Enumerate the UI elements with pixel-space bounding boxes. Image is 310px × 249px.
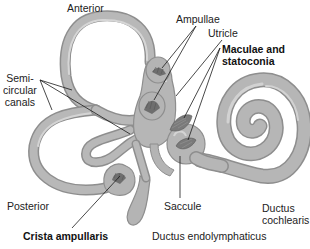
label-semicircular-canals: Semi- circular canals bbox=[3, 72, 37, 108]
label-ductus-endolymphaticus: Ductus endolymphaticus bbox=[152, 230, 266, 242]
label-maculae-statoconia: Maculae and statoconia bbox=[222, 43, 285, 67]
label-anterior: Anterior bbox=[67, 2, 104, 14]
inner-ear-diagram: Anterior Ampullae Utricle Maculae and st… bbox=[0, 0, 310, 249]
ampulla-lower bbox=[104, 164, 135, 195]
label-posterior: Posterior bbox=[7, 200, 49, 212]
label-ampullae: Ampullae bbox=[176, 13, 220, 25]
label-utricle: Utricle bbox=[208, 27, 238, 39]
ampulla-upper bbox=[146, 57, 170, 83]
cochlear-duct bbox=[196, 80, 304, 177]
label-saccule: Saccule bbox=[164, 200, 201, 212]
label-ductus-cochlearis: Ductus cochlearis bbox=[262, 202, 309, 226]
lateral-canal bbox=[86, 130, 140, 162]
anterior-canal bbox=[65, 16, 150, 110]
label-crista-ampullaris: Crista ampullaris bbox=[23, 230, 108, 242]
ampulla-middle bbox=[139, 92, 165, 120]
